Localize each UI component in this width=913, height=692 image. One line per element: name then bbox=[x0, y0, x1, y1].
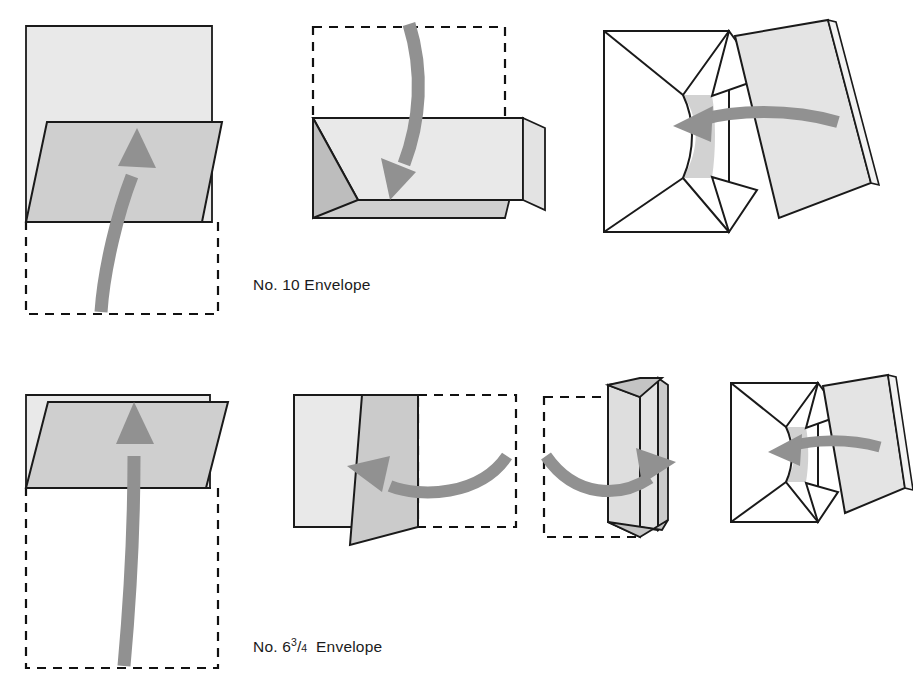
paper-right-edge bbox=[658, 378, 668, 530]
row1-step3-insert-letter bbox=[604, 20, 879, 232]
row2-step3-fold-left-right bbox=[544, 378, 676, 537]
dashed-guide-rect bbox=[26, 222, 218, 314]
fraction-denominator: 4 bbox=[301, 642, 307, 654]
row2-step2-fold-right-left bbox=[294, 395, 516, 545]
paper-left-panel bbox=[294, 395, 362, 527]
folding-diagrams bbox=[0, 0, 913, 692]
caption-no-10-envelope: No. 10 Envelope bbox=[253, 276, 371, 294]
fold-arrow-shaft bbox=[404, 24, 418, 164]
row1-step2-fold-top-down bbox=[313, 24, 545, 218]
caption-no-6-3-4-envelope: No. 63/4 Envelope bbox=[253, 637, 382, 656]
row2-step1-fold-bottom-up bbox=[26, 395, 228, 668]
paper-folded-flap bbox=[26, 402, 228, 488]
fraction-three-quarters: 3/4 bbox=[291, 637, 307, 656]
row2-step4-insert-letter bbox=[731, 375, 913, 522]
insert-arrow-shaft bbox=[792, 441, 880, 447]
paper-front-panel bbox=[608, 385, 640, 537]
caption-suffix: Envelope bbox=[316, 638, 382, 655]
paper-right-edge-fold bbox=[523, 118, 545, 210]
row1-step1-fold-bottom-up bbox=[26, 26, 222, 314]
envelope-folding-instructions: No. 10 Envelope No. 63/4 Envelope bbox=[0, 0, 913, 692]
caption-prefix: No. 6 bbox=[253, 638, 291, 655]
